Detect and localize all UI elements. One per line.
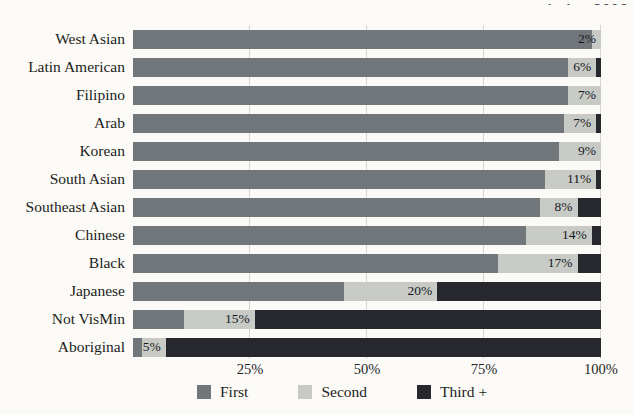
bar-segment-third	[596, 170, 601, 189]
bar-row: Filipino7%	[0, 81, 634, 109]
bar-value-label: 14%	[562, 228, 587, 242]
bar-segment-third	[255, 310, 601, 329]
category-label: Black	[0, 255, 133, 271]
legend-label: Third +	[440, 383, 487, 401]
cropped-header-text-label: …ission 2006	[531, 1, 628, 5]
bar-row: South Asian11%	[0, 165, 634, 193]
bar-row: Japanese20%	[0, 277, 634, 305]
legend-item-second: Second	[298, 383, 367, 401]
bar-segment-third	[578, 254, 601, 273]
bar-row: West Asian2%	[0, 25, 634, 53]
stacked-bar: 15%	[133, 310, 601, 329]
x-tick-label: 25%	[237, 361, 264, 378]
bar-segment-third	[596, 58, 601, 77]
bar-segment-first	[133, 226, 526, 245]
category-label: Aboriginal	[0, 339, 133, 355]
bar-value-label: 6%	[573, 60, 591, 74]
bar-segment-first	[133, 142, 559, 161]
category-label: South Asian	[0, 171, 133, 187]
bar-value-label: 9%	[578, 144, 596, 158]
bar-rows: West Asian2%Latin American6%Filipino7%Ar…	[0, 25, 634, 361]
bar-segment-third	[166, 338, 601, 357]
stacked-bar: 6%	[133, 58, 601, 77]
x-tick-label: 50%	[354, 361, 381, 378]
legend-label: First	[220, 383, 248, 401]
category-label: Korean	[0, 143, 133, 159]
bar-segment-first	[133, 198, 540, 217]
bar-value-label: 15%	[225, 312, 250, 326]
legend-swatch	[298, 385, 312, 399]
bar-segment-first	[133, 170, 545, 189]
category-label: Latin American	[0, 59, 133, 75]
bar-segment-third	[596, 114, 601, 133]
stacked-bar: 20%	[133, 282, 601, 301]
x-axis-ticks: 25%50%75%100%	[133, 361, 601, 379]
category-label: West Asian	[0, 31, 133, 47]
bar-segment-first	[133, 114, 564, 133]
bar-row: Southeast Asian8%	[0, 193, 634, 221]
bar-segment-first	[133, 338, 142, 357]
bar-value-label: 2%	[578, 32, 596, 46]
stacked-bar: 2%	[133, 30, 601, 49]
bar-row: Not VisMin15%	[0, 305, 634, 333]
stacked-bar: 7%	[133, 86, 601, 105]
bar-row: Korean9%	[0, 137, 634, 165]
cropped-header-text: …ission 2006	[428, 0, 628, 5]
legend-item-third: Third +	[417, 383, 487, 401]
category-label: Southeast Asian	[0, 199, 133, 215]
bar-segment-first	[133, 30, 592, 49]
legend-label: Second	[321, 383, 367, 401]
generation-status-chart: …ission 2006 West Asian2%Latin American6…	[0, 0, 634, 415]
bar-value-label: 7%	[578, 88, 596, 102]
bar-segment-third	[437, 282, 601, 301]
stacked-bar: 5%	[133, 338, 601, 357]
bar-segment-first	[133, 254, 498, 273]
bar-segment-third	[578, 198, 601, 217]
category-label: Chinese	[0, 227, 133, 243]
bar-row: Aboriginal5%	[0, 333, 634, 361]
bar-value-label: 8%	[555, 200, 573, 214]
x-tick-label: 100%	[584, 361, 618, 378]
x-tick-label: 75%	[471, 361, 498, 378]
stacked-bar: 11%	[133, 170, 601, 189]
category-label: Filipino	[0, 87, 133, 103]
bar-value-label: 5%	[143, 340, 161, 354]
bar-segment-first	[133, 282, 344, 301]
category-label: Japanese	[0, 283, 133, 299]
bar-row: Chinese14%	[0, 221, 634, 249]
bar-segment-first	[133, 58, 568, 77]
stacked-bar: 7%	[133, 114, 601, 133]
bar-value-label: 20%	[407, 284, 432, 298]
bar-row: Arab7%	[0, 109, 634, 137]
legend-swatch	[197, 385, 211, 399]
legend-item-first: First	[197, 383, 248, 401]
legend-swatch	[417, 385, 431, 399]
bar-segment-third	[592, 226, 601, 245]
bar-row: Latin American6%	[0, 53, 634, 81]
bar-row: Black17%	[0, 249, 634, 277]
stacked-bar: 14%	[133, 226, 601, 245]
legend: FirstSecondThird +	[197, 383, 487, 401]
bar-segment-first	[133, 310, 184, 329]
stacked-bar: 17%	[133, 254, 601, 273]
stacked-bar: 8%	[133, 198, 601, 217]
bar-value-label: 11%	[567, 172, 591, 186]
category-label: Arab	[0, 115, 133, 131]
bar-segment-first	[133, 86, 568, 105]
bar-value-label: 17%	[548, 256, 573, 270]
bar-value-label: 7%	[573, 116, 591, 130]
category-label: Not VisMin	[0, 311, 133, 327]
stacked-bar: 9%	[133, 142, 601, 161]
